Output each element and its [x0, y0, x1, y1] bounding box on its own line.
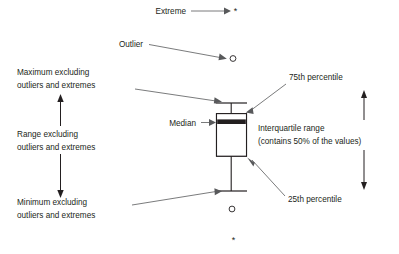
- leader-line-minimum: [132, 192, 216, 206]
- extreme-low-marker: *: [232, 235, 236, 245]
- iqr-lower-arrow-head: [361, 182, 367, 190]
- leader-line-75th-percentile: [250, 84, 286, 111]
- leader-arrow-25th-percentile: [247, 157, 255, 166]
- label-25th-percentile: 25th percentile: [288, 195, 342, 204]
- label-outlier: Outlier: [119, 40, 143, 49]
- outlier-high-marker: [230, 56, 236, 62]
- median-band: [217, 119, 246, 124]
- leader-line-25th-percentile: [252, 160, 285, 196]
- label-iqr-line2: (contains 50% of the values): [258, 137, 362, 146]
- leader-arrow-extreme: [224, 8, 231, 15]
- leader-arrow-75th-percentile: [246, 107, 254, 114]
- leader-arrow-median: [209, 119, 216, 126]
- label-range-line2: outliers and extremes: [17, 143, 95, 152]
- label-median: Median: [169, 119, 196, 128]
- label-maximum-line1: Maximum excluding: [17, 68, 90, 77]
- iqr-upper-arrow-head: [361, 90, 367, 98]
- leader-line-maximum: [135, 89, 216, 101]
- leader-arrow-minimum: [214, 188, 222, 195]
- diagram-canvas: * * Extreme Outlier Maximum excluding ou: [0, 0, 399, 254]
- range-arrow-up-head: [57, 94, 63, 102]
- label-minimum-line2: outliers and extremes: [17, 211, 95, 220]
- label-maximum-line2: outliers and extremes: [17, 81, 95, 90]
- label-range-line1: Range excluding: [17, 130, 78, 139]
- range-arrow-down-head: [57, 190, 63, 198]
- label-iqr-line1: Interquartile range: [258, 124, 325, 133]
- label-75th-percentile: 75th percentile: [289, 73, 343, 82]
- leader-line-outlier: [149, 45, 220, 58]
- label-extreme: Extreme: [156, 7, 187, 16]
- leader-arrow-outlier: [219, 54, 227, 61]
- extreme-high-marker: *: [234, 6, 238, 16]
- outlier-low-marker: [229, 206, 235, 212]
- boxplot-diagram-figure: * * Extreme Outlier Maximum excluding ou: [0, 0, 399, 254]
- label-minimum-line1: Minimum excluding: [17, 198, 88, 207]
